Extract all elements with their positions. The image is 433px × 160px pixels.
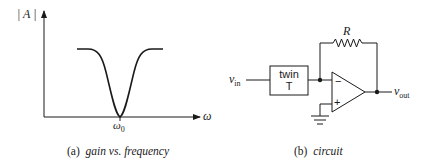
gain-plot <box>44 11 200 121</box>
y-axis-label: | A | <box>17 7 37 22</box>
caption-a-prefix: (a) <box>67 145 80 157</box>
omega0-label: ω0 <box>113 119 125 134</box>
twin-t-circuit <box>246 39 392 124</box>
caption-b: (b) circuit <box>294 145 343 157</box>
output-label-sub: out <box>399 91 409 100</box>
feedback-wire-right <box>362 43 377 92</box>
junction-node-output <box>375 90 379 94</box>
caption-b-prefix: (b) <box>294 145 307 157</box>
junction-node-inverting <box>318 78 322 82</box>
noninverting-input-sign: + <box>334 96 340 108</box>
y-axis-label-text: | A | <box>17 7 37 21</box>
input-label: vin <box>229 72 241 88</box>
output-label: vout <box>394 84 410 100</box>
caption-b-text: circuit <box>313 145 343 157</box>
input-label-sub: in <box>234 79 240 88</box>
x-axis-label: ω <box>203 109 211 124</box>
caption-a: (a) gain vs. frequency <box>67 145 169 157</box>
resistor-R <box>333 39 362 47</box>
feedback-wire-left <box>320 43 333 80</box>
twin-t-label-line2: T <box>274 80 304 92</box>
resistor-label: R <box>343 24 350 39</box>
omega0-sub: 0 <box>121 125 125 134</box>
figure-canvas <box>0 0 433 160</box>
caption-a-text: gain vs. frequency <box>86 145 170 157</box>
notch-curve <box>77 49 163 117</box>
omega0-main: ω <box>113 119 121 131</box>
ground-wire <box>320 104 332 116</box>
inverting-input-sign: − <box>335 75 341 87</box>
twin-t-label-line1: twin <box>274 68 304 80</box>
